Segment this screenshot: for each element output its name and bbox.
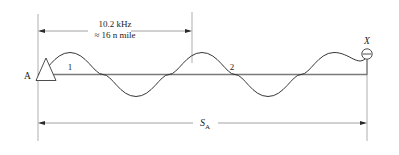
top-dimension-frequency-label: 10.2 kHz xyxy=(99,19,132,29)
point-label-a: A xyxy=(24,71,31,81)
bottom-dimension-label: SA xyxy=(200,117,210,131)
bottom-dimension-arrow-right xyxy=(360,121,367,125)
top-dimension-distance-label: ≈ 16 n mile xyxy=(94,30,135,40)
bottom-dimension-arrow-left xyxy=(38,121,45,125)
top-dimension-arrow-left xyxy=(38,29,45,33)
point-label-x: X xyxy=(363,36,371,46)
wave-label-2: 2 xyxy=(230,62,235,72)
wave-label-1: 1 xyxy=(68,62,73,72)
bottom-dimension-subscript: A xyxy=(205,123,210,131)
top-dimension-arrow-right xyxy=(185,29,192,33)
wave-propagation-diagram: 10.2 kHz ≈ 16 n mile A X 1 2 SA xyxy=(0,0,399,155)
